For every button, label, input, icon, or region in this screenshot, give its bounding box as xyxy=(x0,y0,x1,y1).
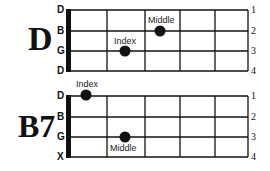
finger-dot-middle xyxy=(120,132,131,143)
string-label: D xyxy=(57,66,64,76)
fret-number: 2 xyxy=(251,112,256,122)
fret-number: 1 xyxy=(251,5,256,15)
finger-dot-middle xyxy=(155,26,166,37)
nut xyxy=(66,9,71,72)
finger-label-index: Index xyxy=(114,37,136,46)
fret-number: 3 xyxy=(251,46,256,56)
string-label: D xyxy=(57,91,64,101)
chord-diagram-b7: B7 D B G X 1 2 3 4 Index Middle xyxy=(0,80,270,171)
fret-number: 2 xyxy=(251,26,256,36)
fret-number: 4 xyxy=(251,66,256,76)
nut xyxy=(66,95,71,158)
string-label: G xyxy=(57,132,65,142)
string-label: G xyxy=(57,46,65,56)
string-label: B xyxy=(57,112,64,122)
string-label: X xyxy=(57,152,64,162)
chord-diagram-d: D D B G D 1 2 3 4 Index Middle xyxy=(0,0,270,80)
fretboard-grid xyxy=(0,80,270,171)
finger-label-index: Index xyxy=(76,80,98,89)
fret-number: 1 xyxy=(251,91,256,101)
fret-number: 3 xyxy=(251,132,256,142)
string-label: D xyxy=(57,5,64,15)
finger-label-middle: Middle xyxy=(148,16,175,25)
string-label: B xyxy=(57,26,64,36)
fret-number: 4 xyxy=(251,152,256,162)
finger-dot-index xyxy=(120,46,131,57)
finger-dot-index xyxy=(81,90,92,101)
finger-label-middle: Middle xyxy=(110,144,137,153)
